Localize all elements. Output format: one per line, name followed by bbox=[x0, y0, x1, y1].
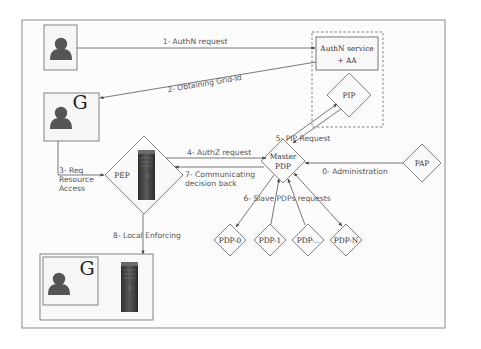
svg-text:PIP: PIP bbox=[343, 91, 356, 100]
svg-text:4- AuthZ request: 4- AuthZ request bbox=[187, 148, 251, 157]
grid-badge: G bbox=[72, 91, 87, 113]
user-grid-node: G bbox=[44, 91, 99, 141]
svg-text:5- PIP Request: 5- PIP Request bbox=[276, 134, 331, 143]
svg-text:PDP: PDP bbox=[275, 162, 291, 171]
svg-text:7- Communicating: 7- Communicating bbox=[185, 170, 255, 179]
svg-text:Master: Master bbox=[270, 152, 297, 161]
svg-text:PEP: PEP bbox=[114, 171, 129, 180]
svg-text:PDP-0: PDP-0 bbox=[219, 236, 242, 245]
svg-text:PDP-N: PDP-N bbox=[334, 236, 359, 245]
server-icon bbox=[138, 150, 155, 200]
architecture-diagram: G AuthN service + AA PIP PEP Master PDP … bbox=[0, 0, 481, 349]
svg-text:1- AuthN request: 1- AuthN request bbox=[163, 37, 228, 46]
svg-text:Access: Access bbox=[59, 184, 85, 193]
svg-text:PDP-1: PDP-1 bbox=[259, 236, 282, 245]
svg-text:AuthN service: AuthN service bbox=[319, 44, 373, 53]
svg-text:PAP: PAP bbox=[415, 159, 430, 168]
svg-text:3- Req: 3- Req bbox=[59, 166, 84, 175]
svg-text:Resource: Resource bbox=[59, 175, 94, 184]
svg-text:6- Slave PDPs requests: 6- Slave PDPs requests bbox=[243, 194, 330, 203]
svg-text:8- Local Enforcing: 8- Local Enforcing bbox=[113, 231, 181, 240]
svg-text:0- Administration: 0- Administration bbox=[322, 167, 388, 176]
svg-text:decision back: decision back bbox=[185, 179, 237, 188]
enforced-node: G bbox=[40, 254, 153, 320]
svg-text:+ AA: + AA bbox=[337, 56, 357, 65]
user-top-node bbox=[44, 25, 77, 70]
grid-badge: G bbox=[79, 257, 94, 279]
server-icon bbox=[121, 262, 138, 312]
authn-service-node: AuthN service + AA bbox=[316, 37, 378, 70]
svg-text:PDP-..: PDP-.. bbox=[297, 236, 320, 245]
